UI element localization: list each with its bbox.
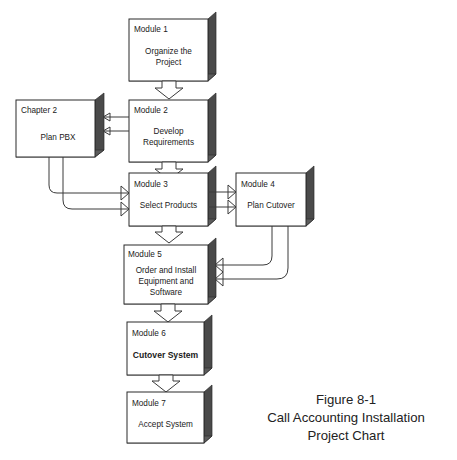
figure-canvas: Module 1 Organize the Project Chapter 2 … (0, 0, 457, 460)
node-module-5[interactable]: Module 5 Order and Install Equipment and… (124, 238, 216, 304)
module-1-title: Module 1 (134, 25, 168, 34)
module-3-shadow-side (208, 166, 216, 226)
module-2-body-line-2: Requirements (143, 138, 194, 147)
flowchart-diagram: Module 1 Organize the Project Chapter 2 … (0, 0, 457, 460)
connector-m3-right-to-m5 (215, 226, 272, 272)
node-module-6[interactable]: Module 6 Cutover System (127, 315, 212, 375)
chapter-2-body-line-1: Plan PBX (40, 133, 76, 142)
node-module-3[interactable]: Module 3 Select Products (129, 166, 216, 226)
module-2-title: Module 2 (134, 106, 168, 115)
module-6-body-line-1: Cutover System (133, 350, 199, 360)
module-7-title: Module 7 (132, 399, 166, 408)
module-2-shadow-side (208, 93, 216, 162)
module-5-title: Module 5 (128, 250, 162, 259)
node-chapter-2[interactable]: Chapter 2 Plan PBX (16, 93, 104, 157)
node-module-7[interactable]: Module 7 Accept System (127, 385, 212, 443)
module-5-shadow-side (208, 238, 216, 304)
node-module-2[interactable]: Module 2 Develop Requirements (129, 93, 216, 162)
module-2-body-line-1: Develop (153, 127, 183, 136)
module-5-body-line-3: Software (150, 288, 183, 297)
module-6-shadow-side (204, 315, 212, 375)
connector-ch2-to-m3-lower (63, 157, 129, 216)
connector-m2-to-ch2-upper (103, 113, 129, 121)
module-4-body-line-1: Plan Cutover (247, 201, 295, 210)
connector-m3-to-m5-arrow (155, 226, 183, 243)
caption-line-1: Figure 8-1 (316, 392, 376, 407)
node-module-4[interactable]: Module 4 Plan Cutover (236, 166, 314, 226)
caption-line-2: Call Accounting Installation (267, 410, 425, 425)
chapter-2-title: Chapter 2 (21, 106, 57, 115)
module-3-title: Module 3 (134, 180, 168, 189)
module-7-body-line-1: Accept System (138, 420, 193, 429)
connector-m1-to-m2-arrow (155, 81, 183, 99)
connector-m6-to-m7-arrow (152, 375, 180, 392)
module-1-body-line-1: Organize the (145, 47, 192, 56)
connector-m2-to-ch2-lower (103, 127, 129, 135)
module-1-body-line-2: Project (156, 58, 182, 67)
module-6-title: Module 6 (132, 329, 166, 338)
module-5-body-line-2: Equipment and (138, 277, 194, 286)
node-module-1[interactable]: Module 1 Organize the Project (129, 12, 216, 81)
module-4-shadow-side (306, 166, 314, 226)
connector-m4-to-m5 (215, 226, 288, 286)
connector-ch2-to-m3-upper (49, 157, 129, 200)
module-4-title: Module 4 (241, 180, 275, 189)
caption-line-3: Project Chart (308, 428, 385, 443)
module-3-body-line-1: Select Products (140, 201, 197, 210)
module-5-body-line-1: Order and Install (136, 266, 197, 275)
chapter-2-shadow-side (95, 93, 104, 157)
figure-caption: Figure 8-1 Call Accounting Installation … (267, 392, 425, 443)
module-1-shadow-side (208, 12, 216, 81)
connector-m5-to-m6-arrow (154, 304, 182, 322)
module-7-shadow-side (204, 385, 212, 443)
